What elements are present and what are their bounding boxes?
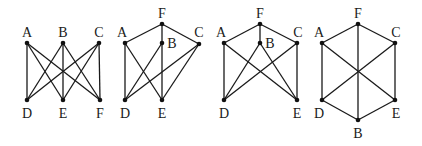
vertex-C — [393, 41, 398, 46]
vertex-B — [356, 118, 361, 123]
vertex-B — [258, 41, 263, 46]
edge-F-A — [322, 24, 358, 43]
vertex-D — [222, 98, 227, 103]
edge-C-F — [99, 43, 100, 100]
vertex-label: C — [94, 25, 103, 40]
vertex-label: C — [194, 25, 203, 40]
vertex-F — [356, 22, 361, 27]
vertex-F — [160, 22, 165, 27]
vertex-E — [160, 98, 165, 103]
vertex-label: D — [22, 106, 32, 121]
graph-4: FACDEB — [314, 6, 401, 141]
graphs-svg: ABCDEFFABCDEFABCDEFACDEB — [0, 0, 422, 146]
vertex-label: B — [167, 36, 176, 51]
vertex-label: E — [392, 106, 401, 121]
edge-F-A — [125, 24, 162, 43]
vertex-label: E — [293, 106, 302, 121]
vertex-label: D — [120, 106, 130, 121]
edge-F-A — [224, 24, 260, 43]
vertex-label: D — [219, 106, 229, 121]
vertex-label: A — [117, 25, 128, 40]
vertex-label: A — [216, 25, 227, 40]
vertex-B — [61, 41, 66, 46]
vertex-B — [160, 41, 165, 46]
vertex-label: B — [353, 126, 362, 141]
graph-2: FABCDE — [117, 6, 204, 121]
vertex-A — [25, 41, 30, 46]
vertex-E — [393, 98, 398, 103]
edge-E-B — [358, 100, 395, 120]
edge-B-D — [322, 100, 358, 120]
vertex-A — [123, 41, 128, 46]
vertex-D — [25, 98, 30, 103]
vertex-label: C — [391, 25, 400, 40]
graph-1: ABCDEF — [22, 25, 104, 121]
vertex-E — [295, 98, 300, 103]
vertex-F — [98, 98, 103, 103]
vertex-label: E — [158, 106, 167, 121]
edge-B-D — [224, 43, 260, 100]
vertex-C — [295, 41, 300, 46]
vertex-label: F — [158, 6, 166, 21]
vertex-label: D — [314, 106, 324, 121]
vertex-label: B — [265, 36, 274, 51]
vertex-D — [320, 98, 325, 103]
vertex-label: F — [96, 106, 104, 121]
graph-3: FABCDE — [216, 6, 303, 121]
vertex-E — [61, 98, 66, 103]
graph-figure: ABCDEFFABCDEFABCDEFACDEB — [0, 0, 422, 146]
vertex-label: F — [354, 6, 362, 21]
vertex-C — [197, 42, 202, 47]
vertex-C — [97, 41, 102, 46]
vertex-label: E — [59, 106, 68, 121]
vertex-label: C — [293, 25, 302, 40]
vertex-F — [258, 22, 263, 27]
vertex-A — [222, 41, 227, 46]
edge-C-E — [162, 44, 199, 100]
vertex-label: A — [22, 25, 33, 40]
vertex-label: B — [58, 25, 67, 40]
vertex-D — [123, 98, 128, 103]
vertex-label: F — [256, 6, 264, 21]
edge-F-C — [358, 24, 395, 43]
edge-B-E — [260, 43, 297, 100]
vertex-A — [320, 41, 325, 46]
vertex-label: A — [314, 25, 325, 40]
